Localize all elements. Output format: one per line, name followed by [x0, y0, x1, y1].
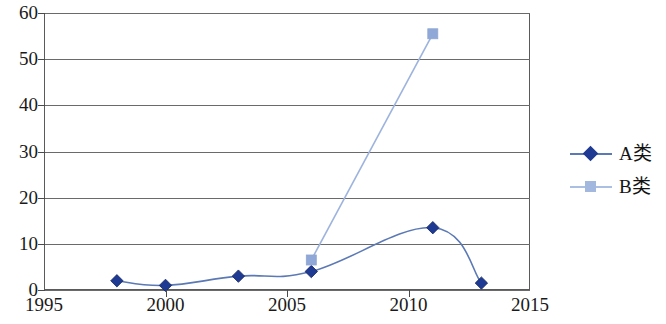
- line-chart: 6050403020100 19952000200520102015 A类B类: [0, 0, 666, 324]
- x-axis-tick-2000: [166, 290, 167, 297]
- x-axis-tick-2010: [409, 290, 410, 297]
- x-axis-label-2005: 2005: [252, 295, 322, 315]
- x-axis: 19952000200520102015: [0, 0, 666, 324]
- x-axis-label-2015: 2015: [495, 295, 565, 315]
- legend-label: A类: [612, 144, 652, 164]
- x-axis-label-2000: 2000: [131, 295, 201, 315]
- square-marker-icon: [585, 181, 596, 192]
- legend-item-b[interactable]: B类: [570, 170, 666, 203]
- legend-key: [570, 179, 612, 195]
- legend-key: [570, 146, 612, 162]
- x-axis-tick-2005: [287, 290, 288, 297]
- legend-label: B类: [612, 177, 651, 197]
- diamond-marker-icon: [583, 145, 599, 161]
- x-axis-label-2010: 2010: [374, 295, 444, 315]
- chart-legend: A类B类: [570, 137, 666, 203]
- legend-item-a[interactable]: A类: [570, 137, 666, 170]
- x-axis-label-1995: 1995: [9, 295, 79, 315]
